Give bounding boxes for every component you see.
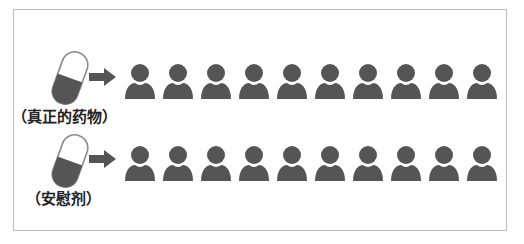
- person-icon: [238, 63, 270, 99]
- placebo-label: （安慰剂）: [26, 187, 101, 208]
- person-icon: [352, 63, 384, 99]
- person-icon: [390, 145, 422, 181]
- arrow-right-icon: [89, 68, 117, 86]
- person-icon: [428, 145, 460, 181]
- person-icon: [466, 145, 498, 181]
- person-icon: [466, 63, 498, 99]
- person-icon: [352, 145, 384, 181]
- person-icon: [238, 145, 270, 181]
- person-icon: [162, 63, 194, 99]
- real-drug-row: （真正的药物）: [0, 46, 524, 136]
- person-icon: [162, 145, 194, 181]
- person-icon: [124, 145, 156, 181]
- arrow-right-icon: [89, 150, 117, 168]
- person-icon: [200, 145, 232, 181]
- person-icon: [314, 63, 346, 99]
- person-icon: [428, 63, 460, 99]
- person-icon: [200, 63, 232, 99]
- placebo-row: （安慰剂）: [0, 128, 524, 218]
- person-icon: [314, 145, 346, 181]
- person-icon: [276, 63, 308, 99]
- person-icon: [124, 63, 156, 99]
- person-icon: [276, 145, 308, 181]
- real-drug-label: （真正的药物）: [12, 105, 117, 126]
- person-icon: [390, 63, 422, 99]
